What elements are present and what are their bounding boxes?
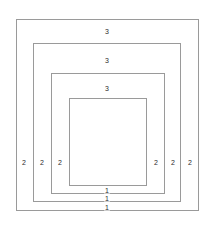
- top-gap-label-3: 3: [104, 85, 110, 92]
- right-gap-label-1: 2: [153, 159, 159, 166]
- bottom-gap-label-1: 1: [104, 187, 110, 194]
- bottom-gap-label-2: 1: [104, 195, 110, 202]
- bottom-gap-label-3: 1: [104, 204, 110, 211]
- right-gap-label-3: 2: [187, 159, 193, 166]
- right-gap-label-2: 2: [170, 159, 176, 166]
- diagram-canvas: 333111222222: [0, 0, 214, 230]
- left-gap-label-3: 2: [57, 159, 63, 166]
- inner-rectangle: [69, 98, 147, 186]
- left-gap-label-1: 2: [21, 159, 27, 166]
- top-gap-label-2: 3: [104, 57, 110, 64]
- top-gap-label-1: 3: [104, 28, 110, 35]
- left-gap-label-2: 2: [39, 159, 45, 166]
